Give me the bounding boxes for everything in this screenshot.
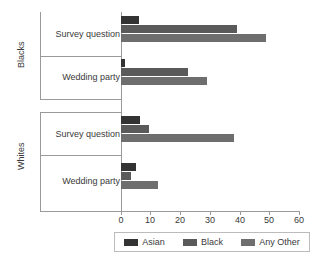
bar-asian [121, 116, 140, 124]
bar-chart: Blacks Whites Survey question Wedding pa… [0, 0, 321, 263]
bar-group-blacks-wedding-party [0, 59, 321, 86]
bar-row [0, 116, 321, 124]
x-tick-label: 60 [289, 215, 309, 225]
category-separator [40, 99, 121, 100]
plot-area: Blacks Whites Survey question Wedding pa… [0, 0, 321, 215]
x-tick-label: 50 [259, 215, 279, 225]
bar-black [121, 172, 131, 180]
x-tick-label: 40 [230, 215, 250, 225]
bar-row [0, 77, 321, 85]
legend-swatch-icon [124, 239, 138, 246]
bar-asian [121, 16, 139, 24]
legend-item-black[interactable]: Black [183, 237, 223, 247]
bar-any-other [121, 34, 266, 42]
legend-swatch-icon [241, 239, 255, 246]
x-axis-line [40, 211, 300, 212]
x-tick-label: 10 [140, 215, 160, 225]
legend-label: Any Other [259, 237, 300, 247]
bar-asian [121, 163, 136, 171]
bar-row [0, 25, 321, 33]
bar-row [0, 181, 321, 189]
bar-group-whites-wedding-party [0, 163, 321, 190]
bar-row [0, 16, 321, 24]
category-separator [40, 56, 121, 57]
bar-row [0, 163, 321, 171]
bar-any-other [121, 134, 234, 142]
bar-row [0, 34, 321, 42]
x-tick-label: 30 [200, 215, 220, 225]
bar-black [121, 125, 149, 133]
x-tick-label: 0 [111, 215, 131, 225]
bar-row [0, 68, 321, 76]
bar-any-other [121, 181, 158, 189]
bar-row [0, 172, 321, 180]
bar-row [0, 134, 321, 142]
legend-swatch-icon [183, 239, 197, 246]
legend-label: Black [201, 237, 223, 247]
category-separator [40, 112, 121, 113]
chart-legend: Asian Black Any Other [114, 232, 310, 252]
bar-any-other [121, 77, 207, 85]
bar-black [121, 68, 188, 76]
category-separator [40, 155, 121, 156]
bar-row [0, 59, 321, 67]
legend-item-any-other[interactable]: Any Other [241, 237, 300, 247]
bar-group-whites-survey-question [0, 116, 321, 143]
x-tick-label: 20 [170, 215, 190, 225]
bar-asian [121, 59, 125, 67]
bar-row [0, 125, 321, 133]
bar-group-blacks-survey-question [0, 16, 321, 43]
bar-black [121, 25, 237, 33]
legend-label: Asian [142, 237, 165, 247]
legend-item-asian[interactable]: Asian [124, 237, 165, 247]
